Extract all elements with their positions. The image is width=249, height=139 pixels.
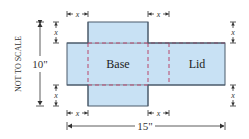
width-label: 15" [137, 120, 153, 132]
box-net-diagram: Base Lid NOT TO SCALE 10" x x [0, 0, 249, 139]
top-right-x-label: x [156, 10, 161, 19]
box-net: Base Lid [67, 22, 225, 106]
base-label: Base [106, 57, 129, 71]
bottom-left-x-label: x [75, 109, 80, 118]
right-top-x-label: x [230, 28, 235, 37]
top-left-x-label: x [75, 10, 80, 19]
right-bottom-x-label: x [230, 91, 235, 100]
bottom-right-x-label: x [156, 109, 161, 118]
height-label: 10" [32, 58, 48, 70]
left-top-x-label: x [53, 28, 58, 37]
not-to-scale-note: NOT TO SCALE [14, 36, 23, 92]
top-flap [88, 22, 148, 43]
lid-label: Lid [189, 57, 206, 71]
left-bottom-x-label: x [53, 91, 58, 100]
bottom-flap [88, 85, 148, 106]
